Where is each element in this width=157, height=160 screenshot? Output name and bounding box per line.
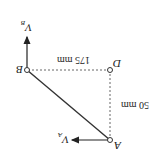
label-VA: VA xyxy=(57,131,69,146)
joint-A xyxy=(108,138,113,143)
dimension-50mm: 50 mm xyxy=(121,100,149,111)
label-D: D xyxy=(113,58,122,70)
joint-B xyxy=(25,68,30,73)
mechanism-diagram: A D B VA VB 175 mm 50 mm xyxy=(0,0,157,160)
dimension-175mm: 175 mm xyxy=(57,55,90,66)
label-B: B xyxy=(16,64,23,76)
label-VB: VB xyxy=(20,19,32,34)
link-AB xyxy=(27,70,110,140)
label-A: A xyxy=(114,140,122,152)
joint-D xyxy=(108,68,113,73)
